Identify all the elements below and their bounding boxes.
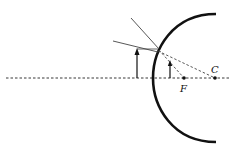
virtual-ray-to-c: [158, 51, 215, 78]
ray-diagram: F C: [0, 0, 230, 151]
reflected-ray-2: [131, 18, 159, 49]
center-point-dot: [213, 76, 217, 80]
focal-point-label: F: [179, 83, 188, 94]
center-point-label: C: [211, 64, 219, 75]
reflected-ray-1: [113, 41, 158, 52]
focal-point-dot: [182, 76, 186, 80]
virtual-ray-to-f: [159, 50, 184, 78]
